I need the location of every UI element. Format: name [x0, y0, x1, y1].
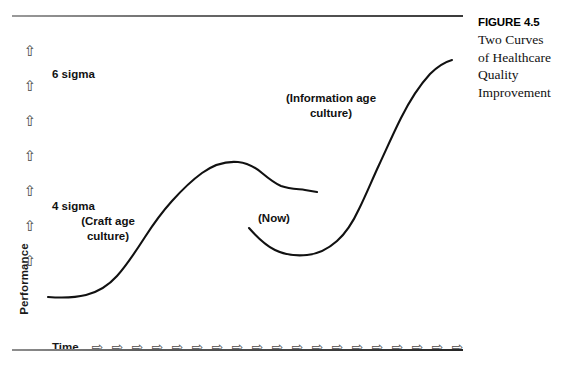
annotation-now: (Now) [258, 211, 290, 226]
annotation-six-sigma: 6 sigma [52, 67, 95, 82]
x-axis-arrow-icon: ⇨ [148, 339, 168, 355]
y-axis-arrow-icon: ⇧ [19, 78, 41, 94]
x-axis-arrow-icon: ⇨ [408, 339, 428, 355]
x-axis-arrow-icon: ⇨ [208, 339, 228, 355]
figure-caption-line: Quality [478, 66, 564, 84]
y-axis-arrow-icon: ⇧ [19, 113, 41, 129]
annotation-four-sigma: 4 sigma [52, 199, 95, 214]
x-axis-arrow-icon: ⇨ [228, 339, 248, 355]
annotation-craft-age-culture: (Craft age culture) [62, 214, 154, 243]
annotation-information-age-culture: (Information age culture) [272, 91, 390, 120]
figure-caption-line: of Healthcare [478, 49, 564, 67]
x-axis-arrow-icon: ⇨ [188, 339, 208, 355]
figure-caption-body: Two Curvesof HealthcareQualityImprovemen… [478, 31, 564, 101]
figure-caption: FIGURE 4.5 Two Curvesof HealthcareQualit… [478, 14, 564, 101]
x-axis-arrow-icon: ⇨ [88, 339, 108, 355]
x-axis-arrow-icon: ⇨ [448, 339, 468, 355]
bottom-rule [12, 349, 463, 351]
figure-caption-title: FIGURE 4.5 [478, 14, 564, 30]
x-axis-arrow-icon: ⇨ [368, 339, 388, 355]
curves-svg [0, 15, 470, 349]
y-axis-label: Performance [18, 233, 30, 325]
x-axis-arrow-icon: ⇨ [348, 339, 368, 355]
plot-area: ⇧ ⇧ ⇧ ⇧ ⇧ ⇧ ⇧ Performance 6 sigma 4 sigm… [0, 15, 470, 349]
x-axis-arrow-icon: ⇨ [328, 339, 348, 355]
information-age-curve [249, 60, 452, 255]
y-axis-arrow-icon: ⇧ [19, 218, 41, 234]
y-axis-arrow-icon: ⇧ [19, 183, 41, 199]
x-axis: Time ⇨⇨⇨⇨⇨⇨⇨⇨⇨⇨⇨⇨⇨⇨⇨⇨⇨⇨⇨ [52, 337, 468, 357]
figure-container: ⇧ ⇧ ⇧ ⇧ ⇧ ⇧ ⇧ Performance 6 sigma 4 sigm… [0, 0, 567, 366]
x-axis-arrow-track: ⇨⇨⇨⇨⇨⇨⇨⇨⇨⇨⇨⇨⇨⇨⇨⇨⇨⇨⇨ [88, 339, 468, 355]
x-axis-arrow-icon: ⇨ [128, 339, 148, 355]
x-axis-arrow-icon: ⇨ [268, 339, 288, 355]
x-axis-arrow-icon: ⇨ [108, 339, 128, 355]
x-axis-arrow-icon: ⇨ [168, 339, 188, 355]
x-axis-arrow-icon: ⇨ [388, 339, 408, 355]
y-axis-arrow-icon: ⇧ [19, 43, 41, 59]
figure-caption-line: Two Curves [478, 31, 564, 49]
x-axis-arrow-icon: ⇨ [288, 339, 308, 355]
y-axis-arrow-icon: ⇧ [19, 148, 41, 164]
x-axis-arrow-icon: ⇨ [308, 339, 328, 355]
x-axis-arrow-icon: ⇨ [248, 339, 268, 355]
x-axis-arrow-icon: ⇨ [428, 339, 448, 355]
figure-caption-line: Improvement [478, 84, 564, 102]
x-axis-label: Time [52, 341, 79, 353]
